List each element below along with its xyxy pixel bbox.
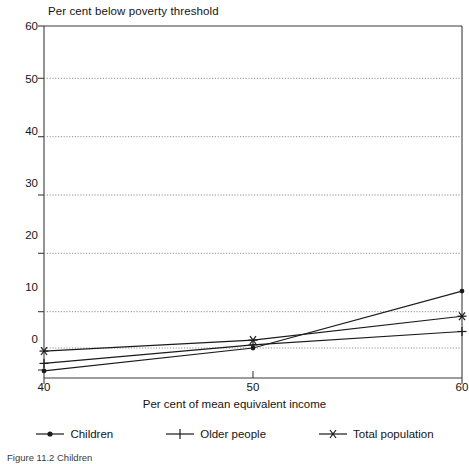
plot-area [0,0,469,464]
gridlines [44,78,462,348]
legend-label-children: Children [70,428,113,440]
y-axis-tick-labels: 60 50 40 30 20 10 0 [0,0,38,464]
x-tick-60: 60 [442,381,469,393]
legend-label-total-population: Total population [353,428,434,440]
chart-legend: Children Older people Total population [0,428,469,440]
x-axis-title: Per cent of mean equivalent income [0,398,469,410]
legend-item-children: Children [35,428,113,440]
x-tick-40: 40 [24,381,64,393]
series-children [42,289,465,374]
plus-marker-icon [165,428,195,440]
y-tick-60: 60 [8,21,38,33]
x-tick-50: 50 [233,381,273,393]
y-tick-0: 0 [8,334,38,346]
chart-title: Per cent below poverty threshold [48,5,219,17]
y-tick-40: 40 [8,126,38,138]
y-tick-30: 30 [8,178,38,190]
y-axis-ticks [38,26,44,370]
data-point-children-60 [460,289,465,294]
dot-marker-icon [35,428,65,440]
data-point-children-40 [42,369,47,374]
poverty-threshold-line-chart: Per cent below poverty threshold 60 50 4… [0,0,469,464]
figure-caption: Figure 11.2 Children [7,452,92,463]
data-point-older-people-40 [40,359,49,368]
y-tick-10: 10 [8,282,38,294]
asterisk-marker-icon [318,428,348,440]
data-point-older-people-60 [458,327,467,336]
legend-item-total-population: Total population [318,428,434,440]
y-tick-20: 20 [8,230,38,242]
legend-item-older-people: Older people [165,428,266,440]
y-tick-50: 50 [8,74,38,86]
legend-label-older-people: Older people [200,428,266,440]
